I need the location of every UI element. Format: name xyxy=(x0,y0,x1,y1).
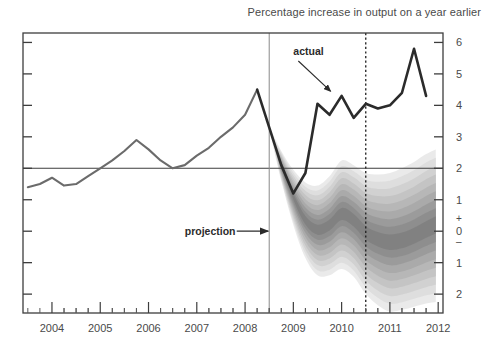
y-tick-label: 2 xyxy=(456,288,462,300)
x-tick-label: 2005 xyxy=(88,322,112,334)
y-tick-label: 6 xyxy=(456,36,462,48)
fan-bands xyxy=(267,34,436,312)
y-tick-label: 4 xyxy=(456,99,462,111)
x-tick-label: 2004 xyxy=(40,322,64,334)
x-tick-label: 2007 xyxy=(185,322,209,334)
annotation-projection-label: projection xyxy=(185,225,236,237)
x-tick-label: 2008 xyxy=(233,322,257,334)
chart-canvas: 654321012 +– 200420052006200720082009201… xyxy=(0,0,495,351)
x-tick-label: 2010 xyxy=(329,322,353,334)
annotation-actual: actual xyxy=(293,45,330,91)
y-axis-ticks-left xyxy=(23,42,32,294)
y-tick-label: 1 xyxy=(456,194,462,206)
x-tick-label: 2012 xyxy=(426,322,450,334)
x-tick-label: 2011 xyxy=(378,322,402,334)
y-axis-minus-sign: – xyxy=(456,236,462,247)
y-tick-label: 5 xyxy=(456,68,462,80)
y-axis-tick-labels: 654321012 xyxy=(456,36,462,300)
annotation-actual-arrow xyxy=(298,61,330,91)
x-tick-label: 2009 xyxy=(281,322,305,334)
history-line xyxy=(28,90,257,188)
annotation-actual-label: actual xyxy=(293,45,323,57)
y-tick-label: 3 xyxy=(456,131,462,143)
x-axis-tick-labels: 200420052006200720082009201020112012 xyxy=(40,322,451,334)
annotation-projection: projection xyxy=(185,225,268,237)
y-tick-label: 1 xyxy=(456,257,462,269)
fan-chart: Percentage increase in output on a year … xyxy=(0,0,495,351)
x-tick-label: 2006 xyxy=(136,322,160,334)
y-axis-plus-sign: + xyxy=(456,213,462,224)
y-tick-label: 2 xyxy=(456,162,462,174)
